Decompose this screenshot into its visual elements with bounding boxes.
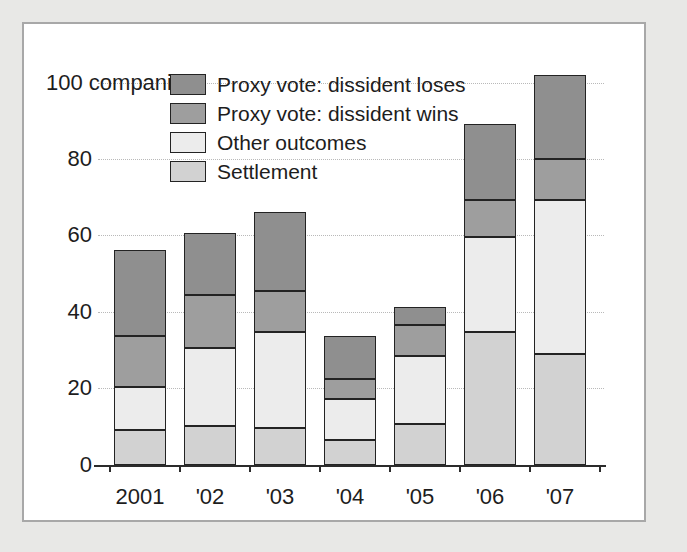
plot-area: 100 companies 80 60 40 20 0 [24, 24, 648, 524]
chart-legend: Proxy vote: dissident loses Proxy vote: … [170, 72, 466, 183]
x-axis-label-04: '04 [336, 484, 365, 510]
x-axis-label-03: '03 [266, 484, 295, 510]
bar-segment-dissident-wins-2004 [324, 379, 376, 399]
legend-swatch-icon-dissident-loses [170, 74, 206, 95]
bar-segment-settlement-2005 [394, 424, 446, 465]
legend-item-settlement: Settlement [170, 159, 466, 183]
x-axis-label-2001: 2001 [116, 484, 165, 510]
gridline-40 [98, 312, 604, 313]
legend-label-dissident-loses: Proxy vote: dissident loses [217, 74, 466, 95]
x-tick-07 [529, 465, 531, 472]
bar-segment-other-outcomes-2007 [534, 200, 586, 354]
bar-segment-dissident-wins-2006 [464, 200, 516, 237]
bar-2006 [464, 124, 516, 465]
legend-swatch-icon-settlement [170, 161, 206, 182]
bar-segment-dissident-loses-2005 [394, 307, 446, 325]
bar-2005 [394, 307, 446, 465]
bar-segment-dissident-wins-2005 [394, 325, 446, 356]
bar-segment-dissident-loses-2004 [324, 336, 376, 379]
x-tick-2001 [109, 465, 111, 472]
x-axis-label-06: '06 [476, 484, 505, 510]
x-axis-label-02: '02 [196, 484, 225, 510]
bar-segment-other-outcomes-2003 [254, 332, 306, 428]
bar-2003 [254, 212, 306, 465]
bar-segment-settlement-2002 [184, 426, 236, 465]
bar-segment-dissident-wins-2002 [184, 295, 236, 348]
bar-segment-dissident-wins-2007 [534, 159, 586, 200]
bar-segment-settlement-2001 [114, 430, 166, 465]
legend-item-other-outcomes: Other outcomes [170, 130, 466, 154]
bar-segment-other-outcomes-2002 [184, 348, 236, 426]
x-tick-end [599, 465, 601, 472]
bar-2001 [114, 250, 166, 465]
bar-segment-dissident-loses-2002 [184, 233, 236, 295]
bar-segment-other-outcomes-2006 [464, 237, 516, 332]
bar-segment-dissident-wins-2001 [114, 336, 166, 387]
gridline-60 [98, 235, 604, 236]
legend-swatch-icon-other-outcomes [170, 132, 206, 153]
y-axis-label-60: 60 [20, 224, 92, 246]
legend-label-dissident-wins: Proxy vote: dissident wins [217, 103, 459, 124]
bar-2002 [184, 233, 236, 465]
x-tick-04 [319, 465, 321, 472]
bar-segment-settlement-2007 [534, 354, 586, 465]
bar-segment-other-outcomes-2001 [114, 387, 166, 430]
legend-item-dissident-wins: Proxy vote: dissident wins [170, 101, 466, 125]
bar-segment-dissident-wins-2003 [254, 291, 306, 332]
bar-2004 [324, 336, 376, 465]
legend-label-settlement: Settlement [217, 161, 317, 182]
bar-segment-other-outcomes-2005 [394, 356, 446, 424]
x-axis-label-05: '05 [406, 484, 435, 510]
bar-segment-settlement-2003 [254, 428, 306, 465]
legend-swatch-icon-dissident-wins [170, 103, 206, 124]
chart-frame: 100 companies 80 60 40 20 0 [22, 22, 646, 522]
bar-2007 [534, 75, 586, 465]
x-tick-06 [459, 465, 461, 472]
bar-segment-settlement-2004 [324, 440, 376, 465]
x-tick-03 [249, 465, 251, 472]
bar-segment-dissident-loses-2003 [254, 212, 306, 291]
x-tick-05 [389, 465, 391, 472]
bar-segment-dissident-loses-2001 [114, 250, 166, 336]
legend-item-dissident-loses: Proxy vote: dissident loses [170, 72, 466, 96]
y-axis-label-40: 40 [20, 301, 92, 323]
bar-segment-other-outcomes-2004 [324, 399, 376, 440]
x-axis-label-07: '07 [546, 484, 575, 510]
y-axis-label-20: 20 [20, 377, 92, 399]
y-axis-label-0: 0 [20, 454, 92, 476]
bar-segment-dissident-loses-2007 [534, 75, 586, 159]
y-axis-label-80: 80 [20, 148, 92, 170]
bar-segment-settlement-2006 [464, 332, 516, 465]
bar-segment-dissident-loses-2006 [464, 124, 516, 200]
x-tick-02 [179, 465, 181, 472]
legend-label-other-outcomes: Other outcomes [217, 132, 366, 153]
